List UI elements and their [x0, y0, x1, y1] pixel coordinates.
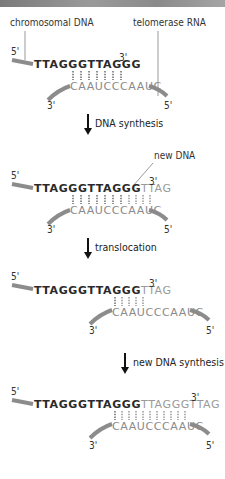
hbond-icon — [73, 71, 121, 80]
rna-end-3prime: 3' — [47, 225, 55, 235]
label-telomerase-rna: telomerase RNA — [133, 18, 206, 28]
dna-backbone-icon — [12, 60, 33, 64]
end-3prime: 3' — [119, 53, 127, 63]
end-3prime: 3' — [149, 279, 157, 289]
end-5prime: 5' — [11, 272, 19, 282]
end-5prime: 5' — [11, 47, 19, 57]
rna-end-5prime: 5' — [164, 225, 172, 235]
rna-backbone-left-icon — [48, 86, 70, 100]
rna-template-sequence: CAAUCCCAAUC — [70, 205, 162, 216]
rna-template-sequence: CAAUCCCAAUC — [70, 81, 162, 92]
label-new-dna: new DNA — [154, 151, 195, 161]
end-3prime: 3' — [191, 393, 199, 403]
end-5prime: 5' — [11, 171, 19, 181]
end-3prime: 3' — [149, 177, 157, 187]
rna-end-5prime: 5' — [206, 441, 214, 451]
rna-end-3prime: 3' — [89, 441, 97, 451]
end-5prime: 5' — [11, 387, 19, 397]
rna-end-3prime: 3' — [47, 101, 55, 111]
rna-end-5prime: 5' — [206, 326, 214, 336]
rna-end-3prime: 3' — [89, 326, 97, 336]
down-arrow-icon — [84, 114, 92, 135]
step-dna-synthesis: DNA synthesis — [95, 118, 163, 129]
rna-end-5prime: 5' — [164, 101, 172, 111]
label-chromosomal-dna: chromosomal DNA — [10, 18, 94, 28]
step-new-dna-synthesis: new DNA synthesis — [133, 357, 224, 368]
rna-template-sequence: CAAUCCCAAUC — [112, 307, 204, 318]
step-translocation: translocation — [95, 242, 157, 253]
rna-template-sequence: CAAUCCCAAUC — [112, 421, 204, 432]
